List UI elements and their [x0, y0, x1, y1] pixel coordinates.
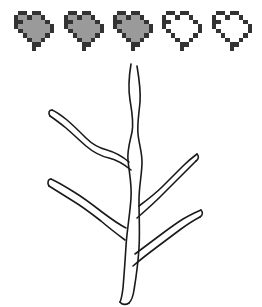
mid-right-limb	[139, 154, 197, 206]
heart-3[interactable]: Heart 3 full	[113, 10, 153, 52]
heart-5-label: Heart 5 empty	[212, 52, 213, 53]
lower-left-limb	[51, 179, 126, 228]
heart-5[interactable]: Heart 5 empty	[212, 10, 252, 52]
main-trunk	[120, 64, 133, 302]
heart-1-label: Heart 1 full	[14, 52, 15, 53]
upper-left-limb-tip	[49, 110, 52, 116]
lower-right-limb	[135, 210, 201, 254]
heart-4-label: Heart 4 empty	[162, 52, 163, 53]
heart-4[interactable]: Heart 4 empty	[162, 10, 202, 52]
mid-right-limb-lower-edge	[137, 161, 196, 218]
heart-highlight-pixel	[18, 20, 22, 24]
lower-left-limb-tip	[48, 179, 51, 186]
scene-canvas: Pixel heart health meter above a bare br…	[0, 0, 262, 307]
heart-highlight-pixel	[216, 20, 220, 24]
lower-right-limb-lower-edge	[133, 217, 200, 266]
heart-highlight-pixel	[68, 20, 72, 24]
heart-2[interactable]: Heart 2 full	[64, 10, 104, 52]
heart-highlight-pixel	[166, 20, 170, 24]
health-value-label: 3/5	[0, 0, 1, 1]
heart-3-label: Heart 3 full	[113, 52, 114, 53]
heart-1[interactable]: Heart 1 full	[14, 10, 54, 52]
heart-2-label: Heart 2 full	[64, 52, 65, 53]
heart-highlight-pixel	[117, 20, 121, 24]
bare-branch-drawing: Bare branch line drawing	[0, 58, 262, 307]
upper-left-limb	[52, 110, 129, 162]
upper-left-limb-lower-edge	[50, 116, 131, 170]
lower-left-limb-lower-edge	[49, 186, 125, 240]
trunk-base-tip	[120, 302, 129, 304]
health-meter: Heart 1 full	[0, 0, 262, 62]
